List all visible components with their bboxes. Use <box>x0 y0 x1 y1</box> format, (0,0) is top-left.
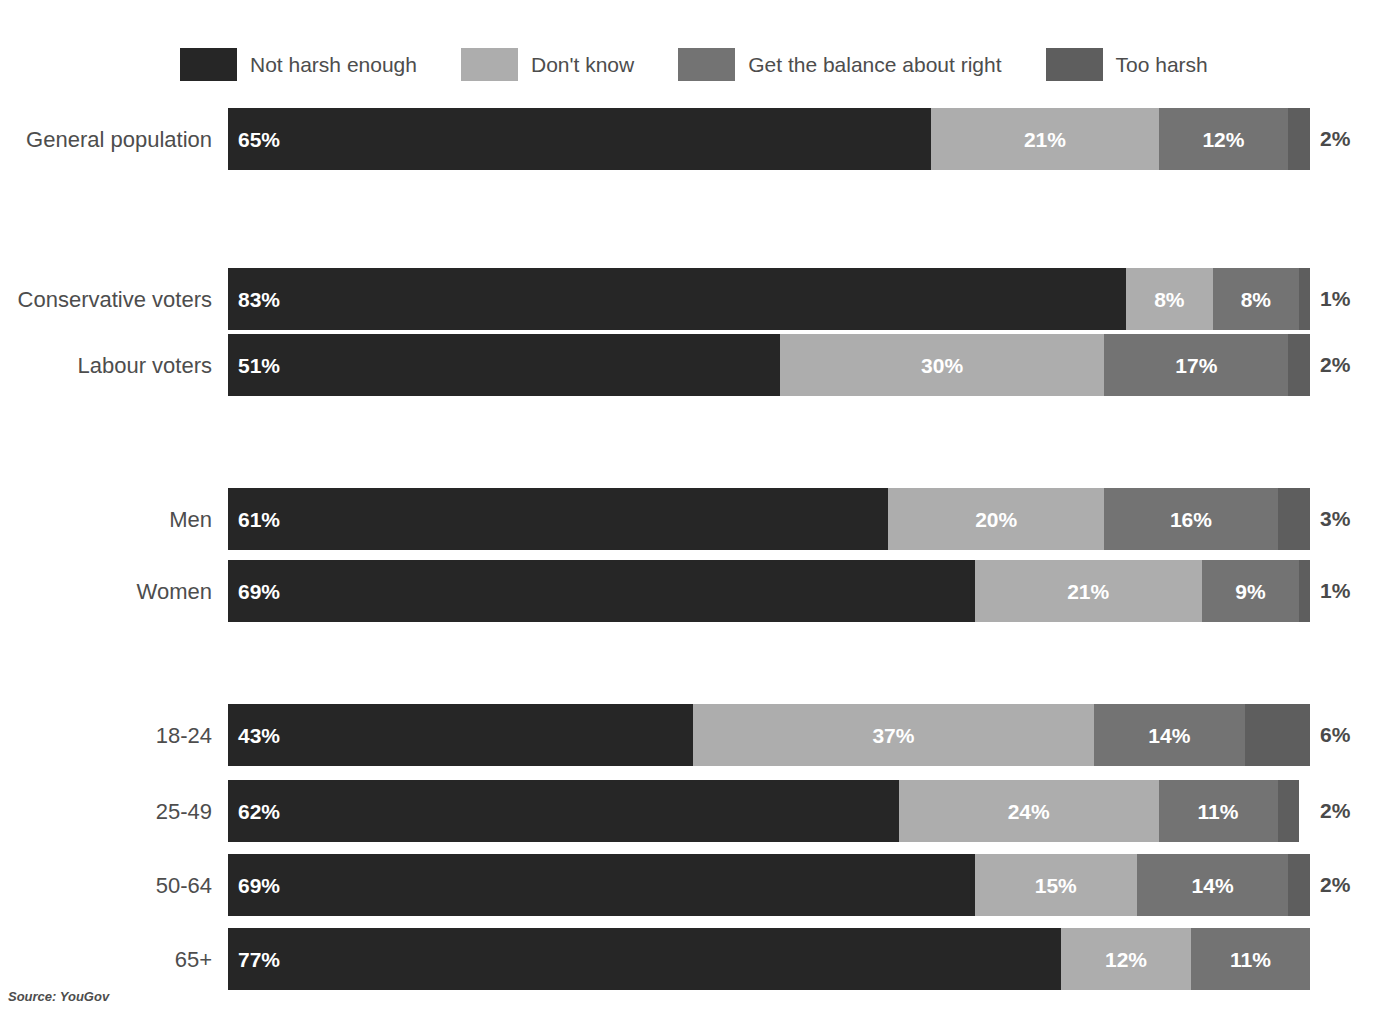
chart-row: 18-2443%37%14%6% <box>0 704 1376 766</box>
bar-segment[interactable]: 14% <box>1094 704 1245 766</box>
bar-segment[interactable]: 21% <box>975 560 1202 622</box>
bar-segment[interactable] <box>1288 108 1310 170</box>
bar-segment[interactable]: 37% <box>693 704 1093 766</box>
bar-outside-value: 2% <box>1320 874 1350 895</box>
source-note: Source: YouGov <box>8 989 109 1004</box>
bar-segment-value: 30% <box>921 355 963 376</box>
chart-row: 25-4962%24%11%2% <box>0 780 1376 842</box>
stacked-bar[interactable]: 77%12%11% <box>228 928 1310 990</box>
bar-segment[interactable]: 24% <box>899 780 1159 842</box>
bar-segment-value: 62% <box>228 801 280 822</box>
chart-row: Men61%20%16%3% <box>0 488 1376 550</box>
bar-segment[interactable] <box>1288 854 1310 916</box>
bar-segment[interactable]: 61% <box>228 488 888 550</box>
bar-segment[interactable]: 8% <box>1213 268 1300 330</box>
bar-outside-value: 3% <box>1320 508 1350 529</box>
category-label: Women <box>0 579 212 605</box>
category-label: Labour voters <box>0 353 212 379</box>
bar-segment-value: 8% <box>1241 289 1271 310</box>
bar-segment-value: 69% <box>228 581 280 602</box>
bar-segment-value: 15% <box>1035 875 1077 896</box>
bar-segment-value: 65% <box>228 129 280 150</box>
bar-segment-value: 61% <box>228 509 280 530</box>
bar-segment-value: 17% <box>1175 355 1217 376</box>
bar-segment[interactable]: 65% <box>228 108 931 170</box>
bar-outside-value: 6% <box>1320 724 1350 745</box>
category-label: 65+ <box>0 947 212 973</box>
bar-segment[interactable]: 12% <box>1061 928 1191 990</box>
bar-segment[interactable]: 69% <box>228 854 975 916</box>
stacked-bar[interactable]: 43%37%14% <box>228 704 1310 766</box>
bar-segment-value: 21% <box>1024 129 1066 150</box>
bar-segment[interactable]: 9% <box>1202 560 1299 622</box>
bar-segment[interactable]: 8% <box>1126 268 1213 330</box>
bar-segment[interactable] <box>1299 268 1310 330</box>
category-label: Conservative voters <box>0 287 212 313</box>
bar-segment-value: 21% <box>1067 581 1109 602</box>
bar-segment[interactable] <box>1278 780 1300 842</box>
chart-row: 50-6469%15%14%2% <box>0 854 1376 916</box>
bar-segment[interactable]: 62% <box>228 780 899 842</box>
bar-segment[interactable]: 77% <box>228 928 1061 990</box>
bar-segment[interactable]: 12% <box>1159 108 1289 170</box>
bar-segment[interactable] <box>1245 704 1310 766</box>
bar-segment-value: 14% <box>1148 725 1190 746</box>
bar-segment-value: 12% <box>1202 129 1244 150</box>
bar-segment[interactable] <box>1278 488 1310 550</box>
bar-segment[interactable]: 30% <box>780 334 1105 396</box>
bar-segment-value: 51% <box>228 355 280 376</box>
bar-segment[interactable]: 20% <box>888 488 1104 550</box>
bar-outside-value: 2% <box>1320 800 1350 821</box>
category-label: 50-64 <box>0 873 212 899</box>
bar-segment[interactable]: 83% <box>228 268 1126 330</box>
chart-plot-area: General population65%21%12%2%Conservativ… <box>0 0 1376 1014</box>
chart-row: Conservative voters83%8%8%1% <box>0 268 1376 330</box>
chart-row: 65+77%12%11% <box>0 928 1376 990</box>
stacked-bar[interactable]: 51%30%17% <box>228 334 1310 396</box>
bar-segment[interactable]: 51% <box>228 334 780 396</box>
bar-segment-value: 14% <box>1192 875 1234 896</box>
bar-segment[interactable]: 15% <box>975 854 1137 916</box>
bar-segment-value: 24% <box>1008 801 1050 822</box>
bar-segment[interactable]: 16% <box>1104 488 1277 550</box>
bar-segment-value: 11% <box>1230 949 1271 970</box>
bar-outside-value: 1% <box>1320 580 1350 601</box>
chart-row: Labour voters51%30%17%2% <box>0 334 1376 396</box>
bar-segment-value: 83% <box>228 289 280 310</box>
stacked-bar[interactable]: 69%21%9% <box>228 560 1310 622</box>
bar-segment[interactable] <box>1288 334 1310 396</box>
bar-segment-value: 9% <box>1235 581 1265 602</box>
bar-segment-value: 69% <box>228 875 280 896</box>
category-label: General population <box>0 127 212 153</box>
bar-segment-value: 11% <box>1198 801 1239 822</box>
chart-row: General population65%21%12%2% <box>0 108 1376 170</box>
stacked-bar[interactable]: 61%20%16% <box>228 488 1310 550</box>
bar-segment-value: 16% <box>1170 509 1212 530</box>
bar-segment-value: 12% <box>1105 949 1147 970</box>
bar-segment-value: 43% <box>228 725 280 746</box>
bar-segment-value: 20% <box>975 509 1017 530</box>
bar-outside-value: 1% <box>1320 288 1350 309</box>
stacked-bar[interactable]: 62%24%11% <box>228 780 1299 842</box>
chart-row: Women69%21%9%1% <box>0 560 1376 622</box>
bar-outside-value: 2% <box>1320 354 1350 375</box>
bar-segment-value: 8% <box>1154 289 1184 310</box>
bar-segment-value: 37% <box>872 725 914 746</box>
bar-segment-value: 77% <box>228 949 280 970</box>
category-label: 25-49 <box>0 799 212 825</box>
category-label: Men <box>0 507 212 533</box>
stacked-bar[interactable]: 83%8%8% <box>228 268 1310 330</box>
bar-segment[interactable]: 21% <box>931 108 1158 170</box>
stacked-bar[interactable]: 65%21%12% <box>228 108 1310 170</box>
bar-segment[interactable]: 14% <box>1137 854 1288 916</box>
stacked-bar[interactable]: 69%15%14% <box>228 854 1310 916</box>
bar-segment[interactable]: 69% <box>228 560 975 622</box>
bar-segment[interactable]: 17% <box>1104 334 1288 396</box>
bar-segment[interactable]: 43% <box>228 704 693 766</box>
bar-segment[interactable] <box>1299 560 1310 622</box>
bar-outside-value: 2% <box>1320 128 1350 149</box>
bar-segment[interactable]: 11% <box>1191 928 1310 990</box>
bar-segment[interactable]: 11% <box>1159 780 1278 842</box>
category-label: 18-24 <box>0 723 212 749</box>
